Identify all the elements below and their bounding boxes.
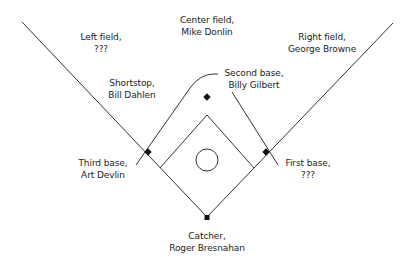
label-first-base: First base, ??? — [285, 157, 330, 181]
third-base-role: Third base, — [78, 157, 127, 169]
second-base-marker — [203, 93, 210, 100]
label-center-field: Center field, Mike Donlin — [180, 14, 234, 38]
label-left-field: Left field, ??? — [81, 31, 122, 55]
first-base-player: ??? — [285, 169, 330, 181]
label-catcher: Catcher, Roger Bresnahan — [169, 230, 245, 254]
label-second-base: Second base, Billy Gilbert — [224, 67, 283, 91]
home-plate-marker — [205, 215, 210, 220]
right-field-player: George Browne — [288, 43, 356, 55]
label-third-base: Third base, Art Devlin — [78, 157, 127, 181]
left-field-role: Left field, — [81, 31, 122, 43]
center-field-player: Mike Donlin — [180, 26, 234, 38]
label-shortstop: Shortstop, Bill Dahlen — [108, 77, 155, 101]
pitchers-mound — [196, 149, 218, 171]
second-base-player: Billy Gilbert — [224, 79, 283, 91]
first-base-role: First base, — [285, 157, 330, 169]
catcher-role: Catcher, — [169, 230, 245, 242]
infield-arc-right — [232, 92, 278, 165]
third-base-marker — [144, 148, 151, 155]
third-base-player: Art Devlin — [78, 169, 127, 181]
shortstop-player: Bill Dahlen — [108, 89, 155, 101]
label-right-field: Right field, George Browne — [288, 31, 356, 55]
catcher-player: Roger Bresnahan — [169, 242, 245, 254]
inner-diamond — [160, 115, 254, 168]
right-field-role: Right field, — [288, 31, 356, 43]
shortstop-role: Shortstop, — [108, 77, 155, 89]
second-base-role: Second base, — [224, 67, 283, 79]
left-field-player: ??? — [81, 43, 122, 55]
center-field-role: Center field, — [180, 14, 234, 26]
